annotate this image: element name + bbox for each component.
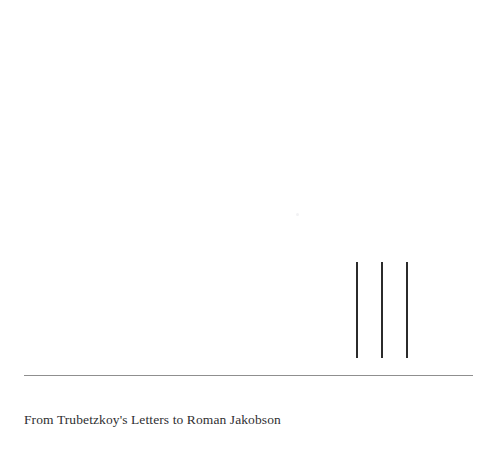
vertical-stroke-2 (381, 262, 383, 358)
vertical-stroke-3 (406, 262, 408, 358)
horizontal-divider-rule (24, 375, 473, 376)
caption-text: From Trubetzkoy's Letters to Roman Jakob… (24, 412, 281, 428)
figure-area (0, 0, 497, 372)
faint-speck-artifact (296, 213, 299, 216)
vertical-stroke-1 (356, 262, 358, 358)
document-page: From Trubetzkoy's Letters to Roman Jakob… (0, 0, 497, 454)
